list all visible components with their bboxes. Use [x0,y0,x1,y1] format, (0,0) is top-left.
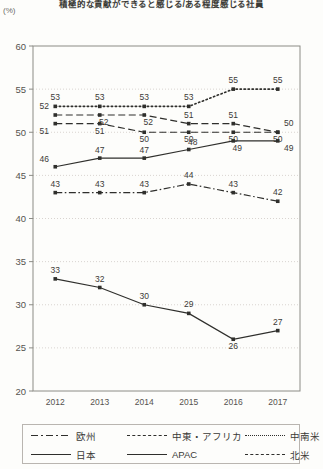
data-point-marker [187,105,191,109]
y-axis-tick-label: 30 [15,299,26,310]
data-point-label: 50 [140,134,150,144]
legend-line-icon [245,451,285,459]
data-point-marker [98,105,102,109]
chart-plot-area: 2025303540455055602012201320142015201620… [0,0,323,412]
data-point-label: 43 [95,179,105,189]
legend-line-icon [127,451,167,459]
data-point-marker [276,130,280,134]
legend-item-中南米[interactable]: 中南米 [245,429,320,443]
data-point-marker [53,277,57,281]
data-point-marker [187,182,191,186]
data-point-label: 51 [40,126,50,136]
data-point-label: 43 [140,179,150,189]
data-point-marker [142,303,146,307]
data-point-label: 52 [99,117,109,127]
series-line [55,124,278,133]
data-point-marker [98,286,102,290]
legend-line-icon [31,432,71,440]
legend-line-icon [31,451,71,459]
x-axis-tick-label: 2014 [135,397,154,407]
data-point-marker [142,191,146,195]
plot-frame [33,46,300,391]
chart-legend: 欧州中東・アフリカ中南米日本APAC北米 [22,424,300,464]
data-point-label: 32 [95,274,105,284]
data-point-label: 47 [95,145,105,155]
data-point-label: 55 [273,75,283,85]
data-point-marker [142,156,146,160]
x-axis-tick-label: 2015 [179,397,198,407]
y-axis-tick-label: 50 [15,127,26,138]
series-日本: 333230292627 [51,265,283,351]
legend-item-label: 北米 [290,448,310,462]
y-axis-tick-label: 40 [15,213,26,224]
y-axis-tick-label: 35 [15,256,26,267]
data-point-marker [98,191,102,195]
y-axis-tick-label: 25 [15,342,26,353]
legend-line-icon [245,432,285,440]
data-point-marker [231,122,235,126]
legend-item-label: APAC [172,449,197,460]
legend-item-label: 欧州 [76,429,96,443]
data-point-label: 47 [140,145,150,155]
x-axis-tick-label: 2016 [224,397,243,407]
data-point-label: 52 [144,117,154,127]
series-line [55,89,278,106]
legend-line-icon [127,432,167,440]
legend-item-中東・アフリカ[interactable]: 中東・アフリカ [127,429,245,443]
data-point-marker [187,122,191,126]
data-point-label: 49 [284,143,294,153]
data-point-label: 48 [188,137,198,147]
legend-item-label: 中南米 [290,429,320,443]
data-point-marker [53,113,57,117]
data-point-marker [276,199,280,203]
data-point-label: 33 [51,265,61,275]
data-point-label: 53 [184,92,194,102]
data-point-label: 49 [233,143,243,153]
data-point-marker [231,87,235,91]
data-point-label: 51 [95,126,105,136]
series-中南米: 535353535555 [51,75,283,108]
y-axis-tick-label: 55 [15,84,26,95]
data-point-label: 30 [140,291,150,301]
data-point-label: 26 [229,341,239,351]
data-point-marker [187,312,191,316]
data-point-label: 44 [184,170,194,180]
data-point-marker [53,191,57,195]
legend-item-日本[interactable]: 日本 [31,448,127,462]
data-point-marker [231,191,235,195]
data-point-marker [53,165,57,169]
data-point-label: 53 [95,92,105,102]
y-axis-tick-label: 45 [15,170,26,181]
legend-item-欧州[interactable]: 欧州 [31,429,127,443]
data-point-marker [98,156,102,160]
legend-item-label: 中東・アフリカ [172,429,242,443]
data-point-label: 42 [273,187,283,197]
data-point-label: 52 [40,101,50,111]
y-axis-tick-label: 60 [15,41,26,52]
line-chart-svg: 2025303540455055602012201320142015201620… [0,0,323,412]
legend-item-北米[interactable]: 北米 [245,448,320,462]
y-axis-tick-label: 20 [15,386,26,397]
data-point-marker [53,122,57,126]
data-point-label: 53 [51,92,61,102]
x-axis-tick-label: 2013 [90,397,109,407]
data-point-label: 50 [284,118,294,128]
data-point-label: 55 [229,75,239,85]
data-point-label: 51 [229,110,239,120]
data-point-label: 53 [140,92,150,102]
data-point-label: 29 [184,299,194,309]
data-point-marker [142,105,146,109]
data-point-marker [276,329,280,333]
series-line [55,184,278,201]
data-point-marker [187,148,191,152]
data-point-label: 43 [51,179,61,189]
series-欧州: 434343444342 [51,170,283,203]
legend-item-APAC[interactable]: APAC [127,449,245,460]
data-point-label: 43 [229,179,239,189]
data-point-marker [276,87,280,91]
series-line [55,279,278,339]
x-axis-tick-label: 2017 [268,397,287,407]
series-APAC: 464747484949 [40,137,294,169]
data-point-label: 46 [40,154,50,164]
data-point-label: 27 [273,317,283,327]
